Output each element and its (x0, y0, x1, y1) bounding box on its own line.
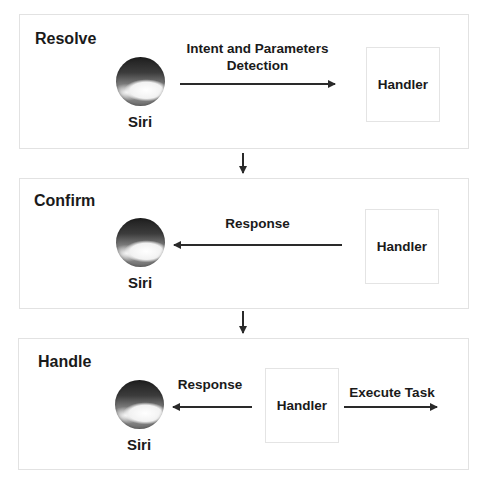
siri-label: Siri (110, 274, 170, 291)
handler-box: Handler (365, 209, 439, 284)
stage-title-confirm: Confirm (34, 192, 95, 210)
siri-label: Siri (110, 113, 170, 130)
arrow-down-icon (242, 153, 244, 173)
arrow-label-intent-detection: Intent and Parameters Detection (170, 40, 345, 74)
arrow-label-response: Response (170, 376, 250, 393)
arrow-left-icon (174, 244, 342, 246)
stage-title-handle: Handle (38, 353, 91, 371)
handler-box: Handler (265, 368, 339, 443)
arrow-label-response: Response (210, 215, 305, 232)
arrow-label-line1: Intent and Parameters (170, 40, 345, 57)
siri-label: Siri (109, 436, 169, 453)
handler-box: Handler (366, 47, 440, 122)
siri-icon (116, 57, 165, 106)
arrow-label-line2: Detection (170, 57, 345, 74)
siri-icon (115, 380, 164, 429)
stage-title-resolve: Resolve (35, 30, 96, 48)
arrow-left-icon (173, 406, 252, 408)
arrow-label-execute-task: Execute Task (342, 384, 442, 401)
arrow-right-icon (180, 83, 335, 85)
arrow-right-icon (344, 406, 437, 408)
arrow-down-icon (242, 311, 244, 333)
siri-icon (116, 218, 165, 267)
